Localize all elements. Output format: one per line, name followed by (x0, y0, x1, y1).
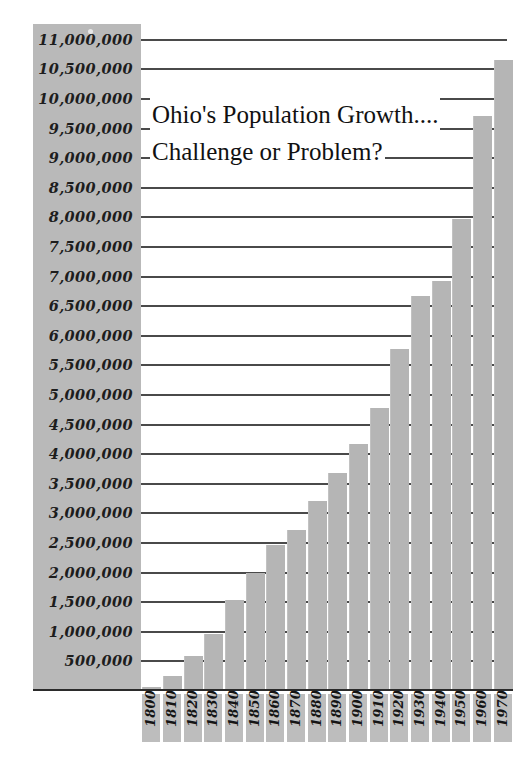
bar (225, 600, 244, 690)
gridline (141, 68, 507, 70)
x-axis-tick-text: 1850 (247, 681, 262, 727)
y-axis-tick-label: 10,500,000 (33, 60, 137, 77)
y-axis-tick-label: 3,500,000 (33, 474, 137, 491)
chart-subtitle: Challenge or Problem? (150, 133, 385, 170)
gridline (141, 187, 507, 189)
x-axis-tick-text: 1830 (205, 681, 220, 727)
x-axis-tick-label: 1900 (349, 694, 367, 752)
y-axis-tick-label: 9,000,000 (33, 149, 137, 166)
x-axis-tick-text: 1800 (143, 681, 158, 727)
y-axis-tick-label: 2,500,000 (33, 534, 137, 551)
x-axis-tick-text: 1870 (288, 681, 303, 727)
x-axis-tick-label: 1810 (163, 694, 181, 752)
gridline (141, 216, 507, 218)
y-axis-tick-label: 2,000,000 (33, 563, 137, 580)
x-axis-tick-text: 1910 (371, 681, 386, 727)
x-axis-tick-label: 1850 (246, 694, 264, 752)
bar (432, 281, 451, 690)
bar (370, 408, 389, 690)
chart-title: Ohio's Population Growth.... (150, 96, 440, 133)
chart-title-block: Ohio's Population Growth.... Challenge o… (150, 96, 440, 170)
x-axis-tick-text: 1920 (391, 681, 406, 727)
x-axis-tick-text: 1810 (164, 681, 179, 727)
bar (287, 530, 306, 690)
bar (411, 296, 430, 690)
bar (473, 116, 492, 690)
y-axis-tick-label: 7,500,000 (33, 238, 137, 255)
x-axis-tick-text: 1840 (226, 681, 241, 727)
y-axis-tick-label: 3,000,000 (33, 504, 137, 521)
population-bar-chart: 11,000,00010,500,00010,000,0009,500,0009… (0, 0, 523, 765)
x-axis-tick-label: 1890 (328, 694, 346, 752)
bar (390, 349, 409, 690)
y-axis-tick-label: 11,000,000 (33, 30, 137, 47)
x-axis-tick-text: 1950 (453, 681, 468, 727)
y-axis-tick-label: 8,500,000 (33, 178, 137, 195)
x-axis-tick-text: 1890 (329, 681, 344, 727)
bar (308, 501, 327, 690)
y-axis-tick-label: 9,500,000 (33, 119, 137, 136)
x-axis-tick-text: 1930 (412, 681, 427, 727)
x-axis-tick-label: 1880 (308, 694, 326, 752)
y-axis-tick-label: 1,500,000 (33, 593, 137, 610)
x-axis-tick-text: 1900 (350, 681, 365, 727)
x-axis-tick-text: 1880 (309, 681, 324, 727)
y-axis-tick-label: 1,000,000 (33, 622, 137, 639)
y-axis-tick-label: 4,500,000 (33, 415, 137, 432)
bar (266, 545, 285, 690)
x-axis-tick-text: 1820 (185, 681, 200, 727)
x-axis-tick-label: 1940 (432, 694, 450, 752)
x-axis-tick-label: 1820 (184, 694, 202, 752)
bar (452, 219, 471, 690)
y-axis-tick-label: 6,000,000 (33, 326, 137, 343)
x-axis-tick-label: 1870 (287, 694, 305, 752)
gridline (141, 39, 507, 41)
x-axis-tick-text: 1940 (433, 681, 448, 727)
bar (328, 473, 347, 690)
x-axis-tick-label: 1910 (370, 694, 388, 752)
x-axis-tick-label: 1950 (452, 694, 470, 752)
x-axis-tick-label: 1830 (204, 694, 222, 752)
x-axis-tick-label: 1860 (266, 694, 284, 752)
y-axis-tick-label: 10,000,000 (33, 90, 137, 107)
x-axis-tick-label: 1800 (142, 694, 160, 752)
bar (246, 573, 265, 690)
y-axis-tick-label: 7,000,000 (33, 267, 137, 284)
x-axis-tick-label: 1930 (411, 694, 429, 752)
x-axis-tick-label: 1960 (473, 694, 491, 752)
bar (494, 60, 513, 690)
x-axis-tick-label: 1840 (225, 694, 243, 752)
x-axis-tick-label: 1920 (390, 694, 408, 752)
bar (349, 444, 368, 690)
x-axis-tick-text: 1960 (474, 681, 489, 727)
x-axis-tick-label: 1970 (494, 694, 512, 752)
y-axis-tick-label: 500,000 (33, 652, 137, 669)
y-axis-tick-label: 8,000,000 (33, 208, 137, 225)
y-axis-tick-label: 5,000,000 (33, 386, 137, 403)
x-axis-tick-text: 1970 (495, 681, 510, 727)
x-axis-tick-text: 1860 (267, 681, 282, 727)
y-axis-tick-label: 4,000,000 (33, 445, 137, 462)
y-axis-tick-label: 5,500,000 (33, 356, 137, 373)
y-axis-tick-label: 6,500,000 (33, 297, 137, 314)
